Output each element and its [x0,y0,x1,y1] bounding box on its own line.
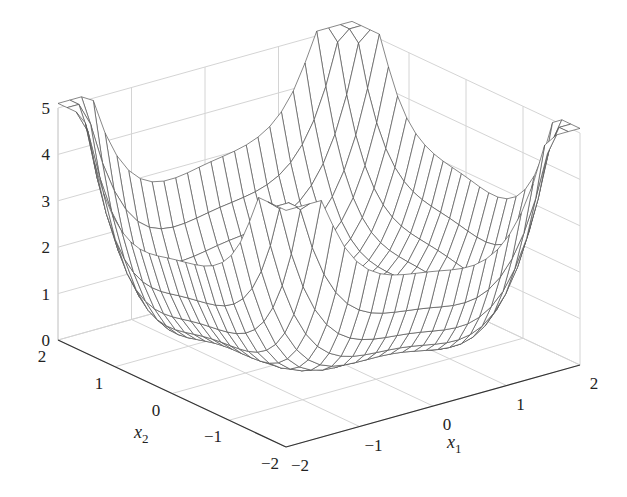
z-tick-label: 2 [42,238,51,257]
x2-tick-label: −2 [261,454,279,473]
x2-tick-label: −1 [204,427,222,446]
x1-tick-label: −2 [291,456,309,475]
x2-tick-label: 0 [152,401,161,420]
x1-tick-label: 1 [516,395,525,414]
x1-tick-label: 2 [590,374,599,393]
z-tick-label: 5 [42,99,51,118]
x1-axis-line [286,365,580,447]
z-tick-label: 4 [42,145,51,164]
x2-tick-label: 2 [38,347,47,366]
x1-tick-label: −1 [364,436,382,455]
x1-axis-label: x1 [446,432,462,456]
z-tick-label: 3 [42,192,51,211]
z-tick-label: 1 [42,285,51,304]
plot-canvas: 012345−2−1012−2−1012 x2 x1 [0,0,627,497]
x2-axis-label: x2 [133,422,149,446]
x2-tick-label: 1 [95,374,104,393]
surface-plot: 012345−2−1012−2−1012 x2 x1 [0,0,627,497]
